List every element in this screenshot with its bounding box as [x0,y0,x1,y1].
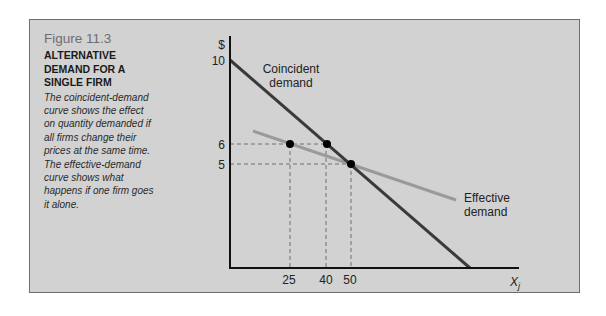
coincident-label-line2: demand [269,76,312,90]
demand-chart: $ 10 6 5 25 40 50 Xj Coincident demand E… [0,0,606,316]
y-tick-10: 10 [212,54,226,68]
x-axis-label: Xj [509,275,521,291]
effective-label-line1: Effective [464,191,510,205]
x-tick-40: 40 [319,273,333,287]
y-tick-5: 5 [218,158,225,172]
y-tick-6: 6 [218,138,225,152]
effective-label-line2: demand [464,205,507,219]
guide-lines [230,144,351,268]
x-tick-50: 50 [343,273,357,287]
y-axis-label: $ [218,38,225,52]
coincident-label-line1: Coincident [263,62,320,76]
x-tick-25: 25 [282,273,296,287]
